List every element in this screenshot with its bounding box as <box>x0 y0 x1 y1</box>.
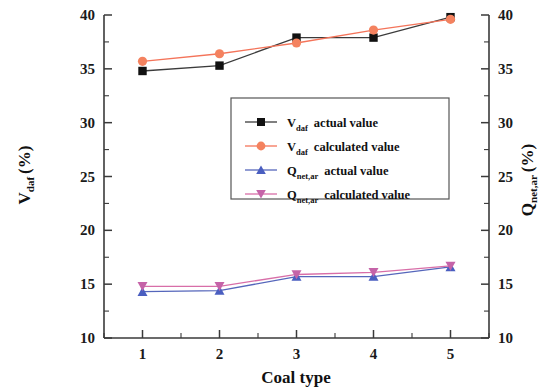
legend: Vdafactual valueVdafcalculated valueQnet… <box>231 98 449 205</box>
legend-label-rest: actual value <box>314 116 379 130</box>
left-tick-label: 10 <box>80 330 95 346</box>
right-axis-title-sub: net,ar <box>527 175 539 203</box>
left-axis-title-main: V <box>15 191 34 204</box>
svg-text:Qnet,ar(%): Qnet,ar(%) <box>518 144 539 216</box>
square-marker <box>257 118 265 126</box>
coal-type-line-chart: 10152025303540 10152025303540 12345 Vdaf… <box>0 0 556 390</box>
right-tick-label: 30 <box>498 115 513 131</box>
x-tick-label: 5 <box>447 346 455 362</box>
left-axis-tick-labels: 10152025303540 <box>80 7 95 346</box>
legend-label-main: Q <box>287 164 297 178</box>
right-tick-label: 20 <box>498 222 513 238</box>
legend-label-rest: calculated value <box>324 188 410 202</box>
x-tick-label: 2 <box>216 346 224 362</box>
right-axis-ticks <box>481 15 489 338</box>
left-axis-title: Vdaf(%) <box>15 146 36 205</box>
x-tick-label: 1 <box>139 346 147 362</box>
series-2 <box>138 15 455 66</box>
data-point <box>446 15 455 24</box>
circle-marker <box>257 142 266 151</box>
left-tick-label: 15 <box>80 276 95 292</box>
x-tick-label: 3 <box>293 346 301 362</box>
left-axis-title-unit: (%) <box>15 146 34 174</box>
right-axis-title-main: Q <box>518 203 537 216</box>
data-point <box>215 61 223 69</box>
legend-label-main: Q <box>287 188 297 202</box>
data-point <box>138 67 146 75</box>
right-tick-label: 35 <box>498 61 513 77</box>
legend-label-subscript: net,ar <box>297 195 319 205</box>
x-tick-label: 4 <box>370 346 378 362</box>
chart-container: 10152025303540 10152025303540 12345 Vdaf… <box>0 0 556 390</box>
legend-label-subscript: daf <box>296 123 308 133</box>
data-point <box>369 25 378 34</box>
series-4 <box>138 262 456 291</box>
data-point <box>138 57 147 66</box>
data-point <box>292 38 301 47</box>
legend-label-main: V <box>287 140 296 154</box>
left-axis-title-sub: daf <box>24 177 36 193</box>
legend-label-rest: actual value <box>324 164 389 178</box>
left-tick-label: 20 <box>80 222 95 238</box>
right-axis-title: Qnet,ar(%) <box>518 144 539 216</box>
right-tick-label: 15 <box>498 276 513 292</box>
left-axis-ticks <box>104 15 112 338</box>
left-tick-label: 25 <box>80 169 95 185</box>
right-axis-title-unit: (%) <box>518 144 537 172</box>
data-point <box>215 49 224 58</box>
left-tick-label: 30 <box>80 115 95 131</box>
legend-label-subscript: daf <box>296 147 308 157</box>
legend-label-subscript: net,ar <box>297 171 319 181</box>
left-tick-label: 40 <box>80 7 95 23</box>
left-tick-label: 35 <box>80 61 95 77</box>
right-axis-tick-labels: 10152025303540 <box>498 7 513 346</box>
right-tick-label: 40 <box>498 7 513 23</box>
svg-text:Vdaf(%): Vdaf(%) <box>15 146 36 205</box>
right-tick-label: 25 <box>498 169 513 185</box>
legend-label-rest: calculated value <box>314 140 400 154</box>
x-axis-tick-labels: 12345 <box>139 346 455 362</box>
bottom-axis-ticks <box>104 330 489 338</box>
x-axis-title: Coal type <box>261 368 331 387</box>
legend-label-main: V <box>287 116 296 130</box>
right-tick-label: 10 <box>498 330 513 346</box>
